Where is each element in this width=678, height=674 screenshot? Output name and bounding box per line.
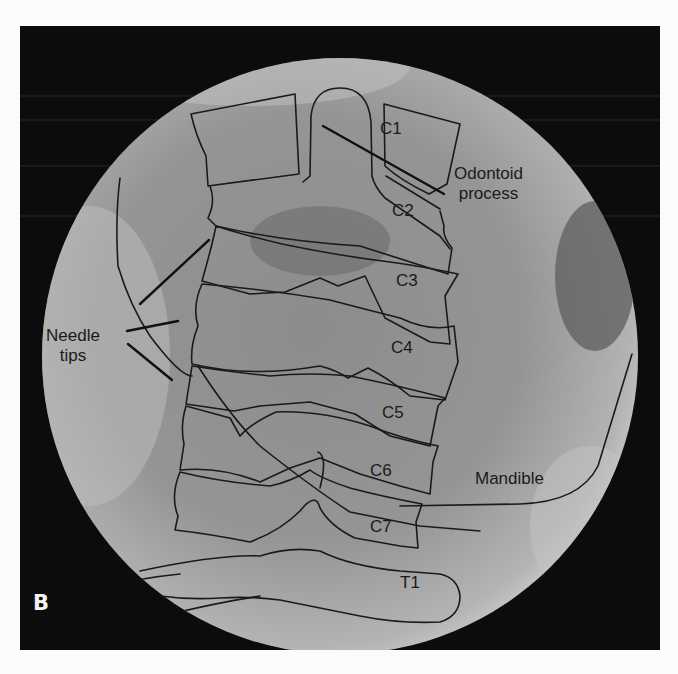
airway-shadow xyxy=(555,201,635,351)
label-c4: C4 xyxy=(391,339,413,356)
label-odontoid-line2: process xyxy=(454,184,523,204)
label-c7: C7 xyxy=(370,518,392,535)
label-c3: C3 xyxy=(396,272,418,289)
label-t1: T1 xyxy=(400,574,420,591)
xray-image xyxy=(20,26,660,650)
label-needle-tips: Needle tips xyxy=(46,326,100,366)
label-c1: C1 xyxy=(380,120,402,137)
label-mandible: Mandible xyxy=(475,470,544,487)
panel-letter: B xyxy=(33,593,49,614)
label-needle-line2: tips xyxy=(46,346,100,366)
label-needle-line1: Needle xyxy=(46,326,100,346)
label-odontoid-line1: Odontoid xyxy=(454,164,523,184)
label-c6: C6 xyxy=(370,462,392,479)
fluoroscopy-figure: C1 Odontoid process C2 C3 Needle tips C4… xyxy=(20,26,660,650)
label-odontoid-process: Odontoid process xyxy=(454,164,523,204)
label-c2: C2 xyxy=(392,202,414,219)
label-c5: C5 xyxy=(382,404,404,421)
